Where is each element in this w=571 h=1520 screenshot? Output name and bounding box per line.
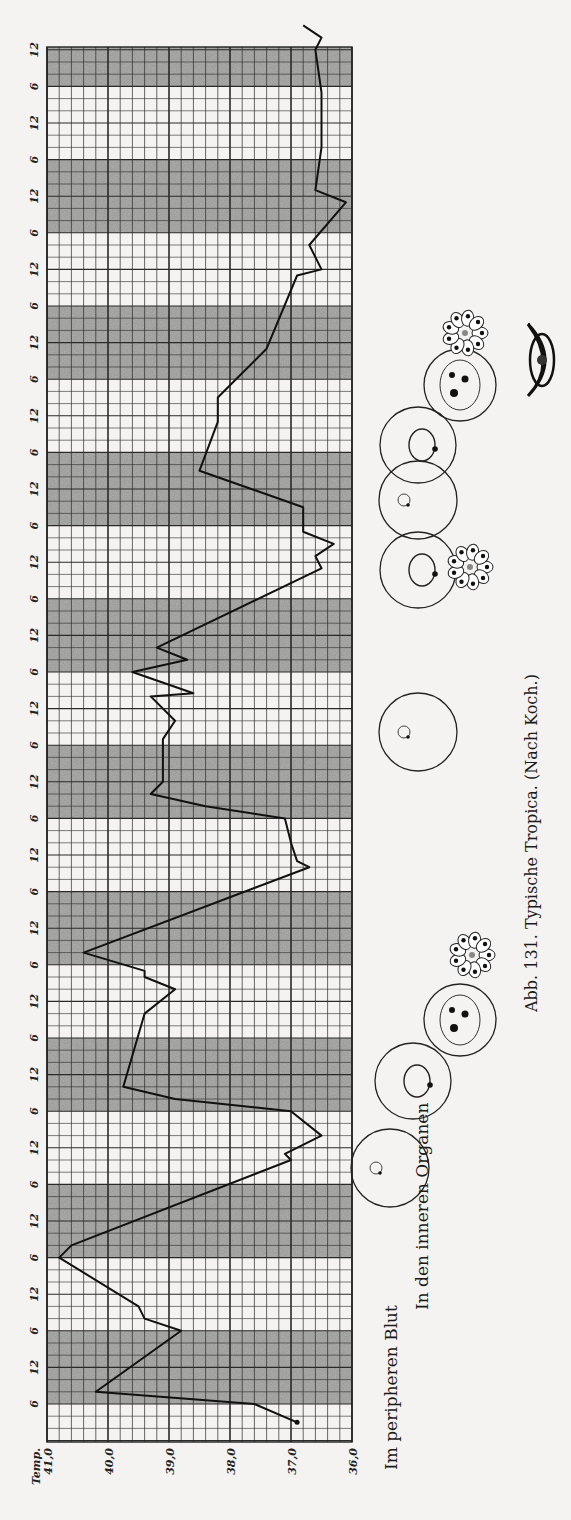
night-shade-bands: [47, 47, 352, 1442]
svg-text:12: 12: [28, 847, 41, 863]
temperature-tick-labels: 41,040,039,038,037,036,0Temp.: [30, 1448, 360, 1485]
svg-text:6: 6: [28, 155, 41, 163]
svg-text:6: 6: [28, 1400, 41, 1408]
figure-caption: Abb. 131. Typische Tropica. (Nach Koch.): [522, 674, 541, 1012]
svg-text:6: 6: [28, 1180, 41, 1188]
svg-text:6: 6: [28, 521, 41, 529]
merozoite-rosette-3-icon: [441, 309, 488, 356]
svg-text:6: 6: [28, 887, 41, 895]
svg-text:6: 6: [28, 1107, 41, 1115]
svg-text:12: 12: [28, 993, 41, 1009]
svg-text:6: 6: [28, 1034, 41, 1042]
time-tick-labels: 6126126126126126126126126126126126126126…: [28, 42, 41, 1408]
svg-text:40,0: 40,0: [103, 1448, 116, 1475]
svg-text:12: 12: [28, 920, 41, 936]
ring-stage-small-2-icon: [379, 693, 457, 771]
svg-text:6: 6: [28, 961, 41, 969]
svg-text:38,0: 38,0: [225, 1448, 238, 1475]
svg-text:12: 12: [28, 1286, 41, 1302]
svg-text:12: 12: [28, 261, 41, 277]
svg-text:6: 6: [28, 1253, 41, 1261]
svg-text:12: 12: [28, 554, 41, 570]
ring-stage-large-3-icon: [380, 407, 456, 483]
merozoite-rosette-icon: [448, 931, 495, 978]
svg-text:6: 6: [28, 229, 41, 237]
schizont-cell-icon: [424, 984, 496, 1056]
svg-text:12: 12: [28, 481, 41, 497]
svg-text:6: 6: [28, 82, 41, 90]
svg-text:6: 6: [28, 448, 41, 456]
svg-text:12: 12: [28, 1067, 41, 1083]
svg-text:12: 12: [28, 701, 41, 717]
svg-text:6: 6: [28, 741, 41, 749]
svg-text:12: 12: [28, 627, 41, 643]
svg-text:6: 6: [28, 595, 41, 603]
svg-text:12: 12: [28, 115, 41, 131]
label-peripheral-blood: Im peripheren Blut: [381, 1305, 401, 1470]
crescent-gametocyte-icon: [528, 324, 554, 396]
svg-text:37,0: 37,0: [286, 1448, 299, 1475]
svg-text:41,0: 41,0: [42, 1448, 55, 1475]
svg-text:12: 12: [28, 1140, 41, 1156]
schizont-cell-2-icon: [424, 349, 496, 421]
svg-text:6: 6: [28, 668, 41, 676]
svg-text:12: 12: [28, 1359, 41, 1375]
svg-text:12: 12: [28, 408, 41, 424]
svg-text:36,0: 36,0: [347, 1448, 360, 1475]
svg-text:12: 12: [28, 335, 41, 351]
svg-text:Temp.: Temp.: [30, 1448, 43, 1485]
svg-text:6: 6: [28, 814, 41, 822]
svg-text:6: 6: [28, 1327, 41, 1335]
ring-stage-large-2-icon: [380, 532, 456, 608]
temperature-chart: 6126126126126126126126126126126126126126…: [0, 0, 571, 1520]
ring-stage-small-3-icon: [379, 461, 457, 539]
svg-text:6: 6: [28, 375, 41, 383]
svg-text:12: 12: [28, 1213, 41, 1229]
svg-text:12: 12: [28, 774, 41, 790]
svg-text:39,0: 39,0: [164, 1448, 177, 1475]
label-inner-organs: In den inneren Organen: [412, 1103, 432, 1310]
svg-text:12: 12: [28, 42, 41, 58]
svg-text:12: 12: [28, 188, 41, 204]
svg-text:6: 6: [28, 302, 41, 310]
